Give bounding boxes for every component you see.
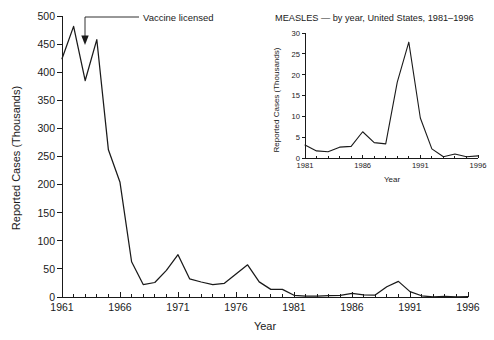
chart-canvas: 19611966197119761981198619911996 0501001… (0, 0, 494, 340)
y-tick-label: 200 (37, 178, 55, 190)
x-tick-label: 1991 (412, 161, 429, 170)
inset-x-tick-labels: 1981198619911996 (297, 161, 487, 170)
main-axes (62, 16, 468, 297)
main-y-axis-title: Reported Cases (Thousands) (10, 86, 22, 230)
x-tick-label: 1986 (354, 161, 371, 170)
main-series-line (62, 26, 468, 296)
main-y-tick-marks (57, 16, 62, 297)
annotation-label: Vaccine licensed (143, 12, 214, 23)
x-tick-label: 1971 (166, 301, 190, 313)
y-tick-label: 150 (37, 207, 55, 219)
inset-y-tick-labels: 051015202530 (292, 29, 300, 163)
inset-x-axis-title: Year (384, 175, 401, 184)
inset-chart: MEASLES — by year, United States, 1981–1… (272, 13, 486, 184)
vaccine-licensed-annotation: Vaccine licensed (81, 12, 213, 46)
x-tick-label: 1996 (456, 301, 480, 313)
annotation-arrowhead-icon (81, 36, 88, 46)
x-tick-label: 1986 (340, 301, 364, 313)
y-tick-label: 5 (296, 133, 300, 142)
inset-y-axis-title: Reported Cases (Thousands) (272, 47, 281, 152)
inset-axes (305, 33, 478, 158)
y-tick-label: 20 (292, 71, 300, 80)
y-tick-label: 300 (37, 122, 55, 134)
x-tick-label: 1966 (108, 301, 132, 313)
y-tick-label: 50 (43, 263, 55, 275)
annotation-leader-line (85, 17, 139, 36)
main-y-tick-labels: 050100150200250300350400450500 (37, 10, 55, 303)
y-tick-label: 100 (37, 235, 55, 247)
x-tick-label: 1976 (224, 301, 248, 313)
y-tick-label: 0 (296, 154, 300, 163)
inset-y-tick-marks (302, 33, 306, 158)
y-tick-label: 10 (292, 112, 300, 121)
main-chart: 19611966197119761981198619911996 0501001… (10, 10, 480, 332)
y-tick-label: 30 (292, 29, 300, 38)
inset-chart-title: MEASLES — by year, United States, 1981–1… (275, 13, 474, 23)
y-tick-label: 350 (37, 94, 55, 106)
y-tick-label: 250 (37, 150, 55, 162)
main-x-axis-title: Year (254, 320, 277, 332)
main-x-tick-labels: 19611966197119761981198619911996 (50, 301, 480, 313)
inset-series-line (305, 42, 478, 157)
y-tick-label: 15 (292, 91, 300, 100)
x-tick-label: 1996 (470, 161, 487, 170)
y-tick-label: 400 (37, 66, 55, 78)
y-tick-label: 450 (37, 38, 55, 50)
y-tick-label: 0 (49, 291, 55, 303)
x-tick-label: 1981 (282, 301, 306, 313)
y-tick-label: 500 (37, 10, 55, 22)
y-tick-label: 25 (292, 50, 300, 59)
measles-figure: 19611966197119761981198619911996 0501001… (0, 0, 494, 340)
main-x-tick-marks (62, 292, 468, 297)
x-tick-label: 1991 (398, 301, 422, 313)
